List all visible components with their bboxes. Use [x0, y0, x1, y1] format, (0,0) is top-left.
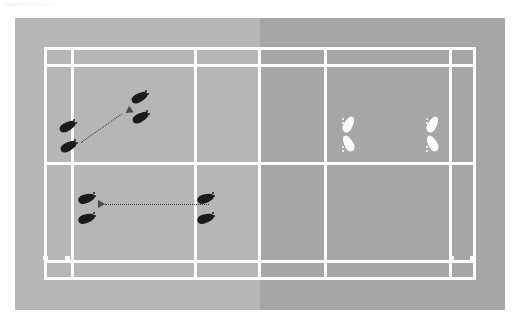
diagram-page: badminton court — [0, 0, 519, 330]
right-short-service-line — [324, 47, 327, 280]
court-lines-layer — [15, 18, 505, 310]
diagram-caption: badminton court — [5, 1, 54, 7]
left-baseline — [44, 47, 47, 280]
net-line — [258, 47, 261, 280]
post-mark-left-inner — [65, 256, 70, 260]
left-doubles-long-service-line — [71, 47, 74, 280]
post-mark-right-inner — [449, 256, 454, 260]
post-mark-right-outer — [470, 256, 475, 260]
right-baseline — [473, 47, 476, 280]
post-mark-left-outer — [43, 256, 48, 260]
arrow-horizontal-left — [105, 204, 209, 205]
left-short-service-line — [194, 47, 197, 280]
right-doubles-long-service-line — [449, 47, 452, 280]
arrow-horizontal-left-head — [98, 200, 105, 208]
badminton-court — [15, 18, 505, 310]
